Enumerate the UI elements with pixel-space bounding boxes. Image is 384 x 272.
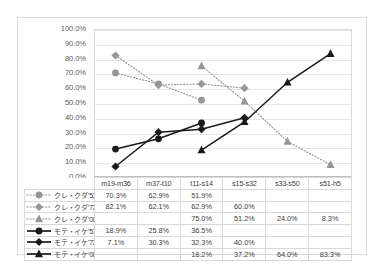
table-header-row: m19-m36m37-t10t11-s14s15-s32s33-s50s51-h… [25,178,352,190]
legend-entry[interactable]: モテ・イケ'08 [25,248,95,260]
y-axis-tick-label: 90.0% [65,40,86,48]
table-cell-value [95,213,138,225]
circle-marker [36,227,43,234]
x-axis-category-label: m19-m36 [95,178,138,190]
legend-entry[interactable]: クレ・クダ'72 [25,201,95,213]
y-axis: 100.0%90.0%80.0%70.0%60.0%50.0%40.0%30.0… [24,29,90,177]
y-axis-tick-label: 50.0% [65,99,86,107]
y-axis-tick-label: 100.0% [61,25,86,33]
triangle-marker [326,160,334,168]
table-row: クレ・クダ'7282.1%62.1%62.9%60.0% [25,201,352,213]
diamond-marker [35,238,43,246]
table-cell-value [223,225,266,237]
table-cell-value [95,248,138,260]
legend-key-circle-icon [26,190,52,200]
legend-entry[interactable]: クレ・クダ'53 [25,189,95,201]
legend-key-triangle-icon [26,214,52,224]
x-axis-category-label: s15-s32 [223,178,266,190]
diamond-marker [197,125,205,133]
table-cell-value: 30.3% [137,236,180,248]
table-cell-value: 62.1% [137,201,180,213]
legend-entry[interactable]: モテ・イケ'53 [25,225,95,237]
y-axis-tick-label: 10.0% [65,158,86,166]
series-line [116,118,245,167]
series-line [202,66,331,165]
chart-object-frame[interactable]: 100.0%90.0%80.0%70.0%60.0%50.0%40.0%30.0… [17,17,367,255]
table-cell-value [137,248,180,260]
triangle-marker [197,146,205,154]
table-cell-value: 70.3% [95,189,138,201]
legend-key-circle-icon [26,226,52,236]
y-axis-tick-label: 60.0% [65,84,86,92]
triangle-marker [197,62,205,70]
table-cell-value: 8.3% [309,213,352,225]
legend-label: モテ・イケ'72 [54,237,95,247]
legend-entry[interactable]: クレ・クダ'08 [25,213,95,225]
table-cell-value [266,201,309,213]
legend-label: モテ・イケ'08 [54,249,95,259]
table-cell-value: 51.9% [180,189,223,201]
legend-label: クレ・クダ'72 [54,202,95,212]
triangle-marker [240,97,248,105]
legend-label: クレ・クダ'53 [54,190,95,200]
triangle-marker [283,78,291,86]
series-2 [111,51,248,92]
triangle-marker [283,137,291,145]
data-table: m19-m36m37-t10t11-s14s15-s32s33-s50s51-h… [24,177,352,261]
triangle-marker [35,214,43,222]
series-5 [111,114,248,171]
circle-marker [198,97,205,104]
table-cell-value: 64.0% [266,248,309,260]
circle-marker [112,70,119,77]
table-cell-value [266,236,309,248]
x-axis-category-label: s51-h5 [309,178,352,190]
y-axis-tick-label: 70.0% [65,70,86,78]
triangle-marker [326,49,334,57]
table-cell-value [266,189,309,201]
table-cell-value [309,225,352,237]
table-cell-value: 40.0% [223,236,266,248]
table-cell-value [223,189,266,201]
x-axis-category-label: t11-s14 [180,178,223,190]
table-cell-value: 36.5% [180,225,223,237]
chart-screenshot: 100.0%90.0%80.0%70.0%60.0%50.0%40.0%30.0… [0,0,384,272]
y-axis-tick-label: 30.0% [65,129,86,137]
table-cell-value: 25.8% [137,225,180,237]
legend-key-diamond-icon [26,202,52,212]
table-cell-value: 51.2% [223,213,266,225]
y-axis-tick-label: 20.0% [65,144,86,152]
circle-marker [36,192,43,199]
series-line [202,54,331,150]
table-cell-value: 82.1% [95,201,138,213]
table-cell-value [309,236,352,248]
table-cell-value: 32.3% [180,236,223,248]
series-line [116,55,245,88]
table-cell-value: 18.2% [180,248,223,260]
series-6 [197,49,334,153]
diamond-marker [197,80,205,88]
table-cell-value: 18.9% [95,225,138,237]
table-cell-value [266,225,309,237]
table-row: クレ・クダ'0875.0%51.2%24.0%8.3% [25,213,352,225]
circle-marker [155,135,162,142]
table-cell-value: 7.1% [95,236,138,248]
table-row: モテ・イケ'5318.9%25.8%36.5% [25,225,352,237]
table-corner-cell [25,178,95,190]
diamond-marker [240,84,248,92]
plot-series-layer [94,29,352,177]
legend-entry[interactable]: モテ・イケ'72 [25,236,95,248]
table-body: クレ・クダ'5370.3%62.9%51.9%クレ・クダ'7282.1%62.1… [25,189,352,260]
table-cell-value: 62.9% [180,201,223,213]
legend-key-diamond-icon [26,237,52,247]
table-cell-value: 24.0% [266,213,309,225]
table-cell-value: 60.0% [223,201,266,213]
legend-key-triangle-icon [26,249,52,259]
table-row: モテ・イケ'0818.2%37.2%64.0%83.3% [25,248,352,260]
table-row: クレ・クダ'5370.3%62.9%51.9% [25,189,352,201]
table-cell-value [309,201,352,213]
series-3 [197,62,334,168]
legend-label: モテ・イケ'53 [54,226,95,236]
x-axis-category-label: m37-t10 [137,178,180,190]
y-axis-tick-label: 80.0% [65,55,86,63]
diamond-marker [35,203,43,211]
